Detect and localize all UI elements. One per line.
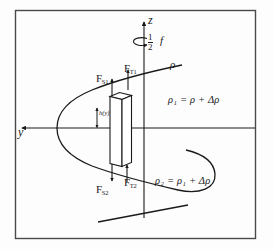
density-label-base: ρ [170,59,175,70]
figure-root: z y 1 2 f ρ ρ₁ = ρ + Δρ ρ₂ = ρ₁ + Δρ h(y… [0,0,273,249]
force-label-s1-subscript: S1 [102,78,109,85]
force-label-s1: FS1 [96,73,109,84]
fluid-column-prism [110,93,132,167]
height-label: h(y) [99,110,109,117]
force-label-t1-subscript: T1 [130,68,137,75]
density-label-lower: ρ₂ = ρ₁ + Δρ [155,176,210,187]
force-label-t1: FT1 [124,63,137,74]
force-label-s2: FS2 [96,184,109,195]
force-label-s2-subscript: S2 [102,189,109,196]
force-label-t2: FT2 [124,177,137,188]
density-label-upper: ρ₁ = ρ + Δρ [168,95,220,106]
half-coefficient: 1 2 [148,33,153,53]
force-label-t2-subscript: T2 [130,182,137,189]
y-axis-label: y [18,126,23,138]
z-axis-label: z [148,14,153,26]
fraction-numerator: 1 [148,33,153,42]
coriolis-parameter-label: f [160,35,163,46]
figure-canvas [0,0,273,249]
fraction-denominator: 2 [148,42,153,52]
